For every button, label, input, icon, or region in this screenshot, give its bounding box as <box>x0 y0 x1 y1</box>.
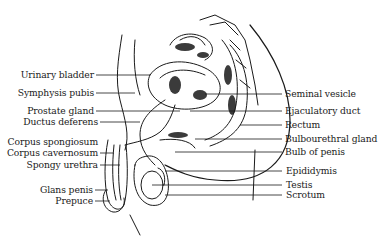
label-prepuce: Prepuce <box>55 196 93 206</box>
label-glans-penis: Glans penis <box>40 185 93 195</box>
label-ductus-deferens: Ductus deferens <box>23 117 98 127</box>
label-epididymis: Epididymis <box>286 166 337 176</box>
label-symphysis-pubis: Symphysis pubis <box>18 88 94 98</box>
label-bulb-of-penis: Bulb of penis <box>285 147 345 157</box>
label-urinary-bladder: Urinary bladder <box>21 70 94 80</box>
label-seminal-vesicle: Seminal vesicle <box>285 89 356 99</box>
label-rectum: Rectum <box>285 120 320 130</box>
label-spongy-urethra: Spongy urethra <box>27 160 98 170</box>
label-corpus-spongiosum: Corpus spongiosum <box>8 137 98 147</box>
label-bulbourethral-gland: Bulbourethral gland <box>285 134 377 144</box>
label-corpus-cavernosum: Corpus cavernosum <box>7 148 98 158</box>
label-ejaculatory-duct: Ejaculatory duct <box>285 106 360 116</box>
label-scrotum: Scrotum <box>286 190 325 200</box>
label-prostate-gland: Prostate gland <box>27 106 94 116</box>
anatomy-diagram: Urinary bladder Symphysis pubis Prostate… <box>0 0 380 239</box>
